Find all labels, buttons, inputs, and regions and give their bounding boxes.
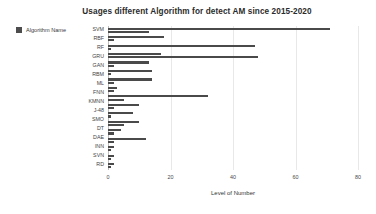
x-tick-label: 60 bbox=[293, 174, 299, 180]
x-axis-title: Level of Number bbox=[108, 190, 358, 196]
y-tick-label: RD bbox=[96, 162, 108, 167]
bar-group bbox=[108, 119, 358, 127]
bar bbox=[108, 115, 111, 117]
bar bbox=[108, 149, 111, 151]
bar bbox=[108, 124, 124, 126]
y-tick-label: ML bbox=[97, 81, 108, 86]
bar bbox=[108, 146, 114, 148]
bar-group bbox=[108, 102, 358, 110]
bar bbox=[108, 132, 114, 134]
x-tick-label: 0 bbox=[107, 174, 110, 180]
bar bbox=[108, 99, 124, 101]
bar bbox=[108, 56, 258, 58]
bar bbox=[108, 78, 152, 80]
bar bbox=[108, 65, 114, 67]
bar bbox=[108, 141, 114, 143]
y-tick-label: INN bbox=[95, 144, 108, 149]
bar bbox=[108, 70, 152, 72]
gridline bbox=[358, 26, 359, 170]
bar bbox=[108, 36, 164, 38]
y-tick-label: RBM bbox=[92, 72, 108, 77]
bar bbox=[108, 129, 121, 131]
bar bbox=[108, 73, 111, 75]
bar-group bbox=[108, 26, 358, 34]
y-tick-label: RF bbox=[97, 45, 108, 50]
bar-group bbox=[108, 34, 358, 42]
bar bbox=[108, 53, 161, 55]
bar-group bbox=[108, 51, 358, 59]
bar bbox=[108, 121, 139, 123]
bar bbox=[108, 45, 255, 47]
y-tick-label: SVM bbox=[93, 27, 108, 32]
bar bbox=[108, 82, 114, 84]
y-tick-label: FNN bbox=[93, 90, 108, 95]
bar-chart: Usages different Algorithm for detect AM… bbox=[0, 0, 376, 214]
y-tick-label: DAE bbox=[93, 135, 108, 140]
bar-group bbox=[108, 68, 358, 76]
bar bbox=[108, 90, 114, 92]
bar bbox=[108, 158, 111, 160]
bar bbox=[108, 166, 111, 168]
x-tick-label: 40 bbox=[230, 174, 236, 180]
bar-group bbox=[108, 128, 358, 136]
bar-group bbox=[108, 85, 358, 93]
bar-group bbox=[108, 77, 358, 85]
bar-group bbox=[108, 153, 358, 161]
y-tick-label: GRU bbox=[92, 54, 108, 59]
bar bbox=[108, 112, 133, 114]
y-tick-label: SMO bbox=[92, 117, 108, 122]
bar bbox=[108, 163, 114, 165]
y-tick-label: J-48 bbox=[94, 108, 108, 113]
bar bbox=[108, 87, 117, 89]
bar bbox=[108, 95, 208, 97]
y-tick-label: RBF bbox=[93, 36, 108, 41]
chart-legend: Algorithm Name bbox=[16, 27, 66, 33]
bar bbox=[108, 61, 149, 63]
legend-label: Algorithm Name bbox=[26, 27, 66, 33]
bar-group bbox=[108, 136, 358, 144]
bar bbox=[108, 28, 330, 30]
bar-group bbox=[108, 162, 358, 170]
bar bbox=[108, 39, 114, 41]
bar bbox=[108, 48, 111, 50]
bar-group bbox=[108, 43, 358, 51]
bar-group bbox=[108, 60, 358, 68]
chart-title: Usages different Algorithm for detect AM… bbox=[0, 7, 376, 16]
x-tick-label: 80 bbox=[355, 174, 361, 180]
bar-group bbox=[108, 111, 358, 119]
bar-group bbox=[108, 145, 358, 153]
bar bbox=[108, 107, 114, 109]
plot-area bbox=[108, 26, 358, 170]
y-tick-label: DT bbox=[97, 126, 108, 131]
y-tick-label: GAN bbox=[93, 63, 108, 68]
bar bbox=[108, 31, 149, 33]
bar bbox=[108, 155, 114, 157]
x-tick-label: 20 bbox=[168, 174, 174, 180]
bar-group bbox=[108, 94, 358, 102]
legend-swatch-icon bbox=[16, 27, 22, 33]
bar bbox=[108, 104, 139, 106]
y-tick-label: SVN bbox=[93, 153, 108, 158]
bar bbox=[108, 138, 146, 140]
y-tick-label: KMNN bbox=[88, 99, 108, 104]
